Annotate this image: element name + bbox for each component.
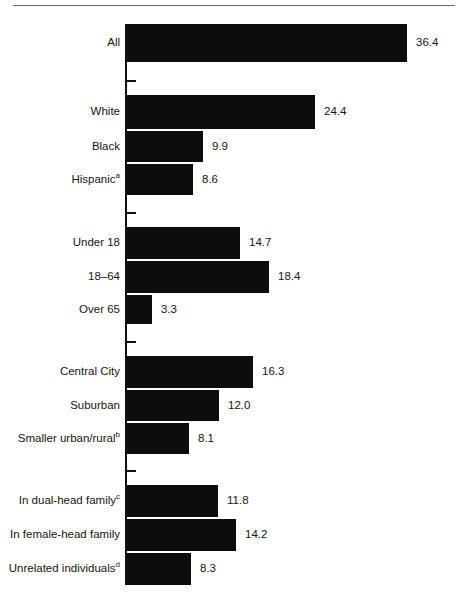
- bar-category-label: All: [0, 37, 120, 49]
- figure-bar-chart: All36.4White24.4Black9.9Hispanica8.6Unde…: [0, 0, 468, 614]
- bar-row: Hispanica8.6: [0, 164, 468, 195]
- bar: [127, 553, 191, 585]
- bar-row: All36.4: [0, 24, 468, 62]
- bar-row: Suburban12.0: [0, 390, 468, 421]
- bar: [127, 390, 219, 421]
- footnote-marker: a: [116, 171, 120, 180]
- group-tick-2: [127, 341, 136, 343]
- bar-category-label: White: [0, 106, 120, 118]
- bar-row: Unrelated individualsd8.3: [0, 553, 468, 585]
- bar-value-label: 8.3: [200, 563, 216, 575]
- plot-area: All36.4White24.4Black9.9Hispanica8.6Unde…: [0, 0, 468, 614]
- bar: [127, 295, 152, 324]
- bar-category-label: Central City: [0, 366, 120, 378]
- bar-row: 18–6418.4: [0, 261, 468, 293]
- bar-row: In dual-head familyc11.8: [0, 485, 468, 517]
- bar: [127, 24, 407, 62]
- bar-row: Under 1814.7: [0, 227, 468, 259]
- bar-category-label: Over 65: [0, 304, 120, 316]
- bar-value-label: 8.1: [198, 433, 214, 445]
- bar: [127, 131, 203, 162]
- bar-category-label: Black: [0, 141, 120, 153]
- bar-category-label: 18–64: [0, 271, 120, 283]
- footnote-marker: b: [116, 430, 120, 439]
- bar: [127, 261, 269, 293]
- bar: [127, 423, 189, 454]
- bar-row: Central City16.3: [0, 356, 468, 388]
- bar-value-label: 36.4: [416, 37, 438, 49]
- footnote-marker: c: [116, 492, 120, 501]
- bar-category-label: Under 18: [0, 237, 120, 249]
- group-tick-3: [127, 470, 136, 472]
- group-tick-0: [127, 80, 136, 82]
- bar-value-label: 18.4: [278, 271, 300, 283]
- bar-category-label: Hispanica: [0, 174, 120, 186]
- bar: [127, 485, 218, 517]
- bar-row: Black9.9: [0, 131, 468, 162]
- bar-value-label: 11.8: [227, 495, 249, 507]
- bar-value-label: 12.0: [228, 400, 250, 412]
- bar-category-label: In dual-head familyc: [0, 495, 120, 507]
- bar-value-label: 24.4: [324, 106, 346, 118]
- bar: [127, 164, 193, 195]
- footnote-marker: d: [116, 560, 120, 569]
- group-tick-1: [127, 212, 136, 214]
- bar-value-label: 14.2: [245, 529, 267, 541]
- bar-value-label: 8.6: [202, 174, 218, 186]
- bar: [127, 95, 315, 129]
- bar-category-label: Unrelated individualsd: [0, 563, 120, 575]
- bar-category-label: Smaller urban/ruralb: [0, 433, 120, 445]
- bar: [127, 519, 236, 551]
- bar-value-label: 14.7: [249, 237, 271, 249]
- bar-value-label: 9.9: [212, 141, 228, 153]
- bar-category-label: Suburban: [0, 400, 120, 412]
- bar: [127, 227, 240, 259]
- bar-row: Over 653.3: [0, 295, 468, 324]
- bar-value-label: 3.3: [161, 304, 177, 316]
- bar-row: White24.4: [0, 95, 468, 129]
- bar-row: Smaller urban/ruralb8.1: [0, 423, 468, 454]
- bar-row: In female-head family14.2: [0, 519, 468, 551]
- bar: [127, 356, 253, 388]
- bar-category-label: In female-head family: [0, 529, 120, 541]
- bar-value-label: 16.3: [262, 366, 284, 378]
